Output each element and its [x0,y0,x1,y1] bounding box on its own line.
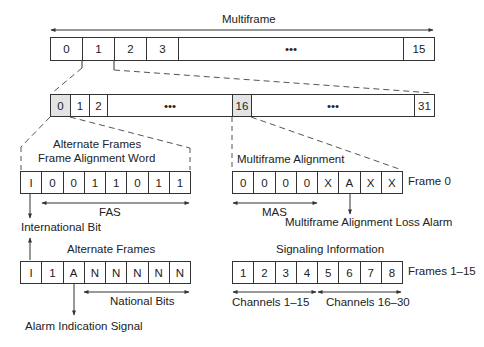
frame0-label: Frame 0 [408,175,451,187]
mf-alignment-loss-alarm-label: Multiframe Alignment Loss Alarm [285,216,452,228]
timeslot-cell: 31 [415,95,434,116]
signaling-heading: Signaling Information [276,243,384,255]
e1-multiframe-diagram: Multiframe 0 1 2 3 ••• 15 0 1 2 ••• 16 •… [0,0,484,347]
bit-cell: 0 [42,172,63,193]
timeslot-ellipsis: ••• [252,95,415,116]
bit-cell: 8 [382,262,402,283]
bit-cell: 1 [233,262,254,283]
national-bits-label: National Bits [110,295,175,307]
frame-cell: 1 [83,38,115,60]
bit-cell: N [85,262,106,283]
nfas-heading: Alternate Frames [67,243,155,255]
timeslot-cell: 2 [90,95,108,116]
multiframe-title: Multiframe [222,13,276,25]
bit-cell: 5 [318,262,339,283]
timeslot-cell-0: 0 [51,95,71,116]
bit-cell: 0 [276,172,297,193]
bit-cell: 3 [276,262,297,283]
alarm-indication-label: Alarm Indication Signal [25,320,143,332]
frame-cell: 15 [404,38,434,60]
frame-cell: 0 [51,38,83,60]
bit-cell: 6 [339,262,360,283]
timeslot-cell-16: 16 [233,95,252,116]
channels-1-15-label: Channels 1–15 [232,296,309,308]
bit-cell: 1 [149,172,170,193]
fas-heading-line1: Alternate Frames [53,138,141,150]
bit-cell: 7 [361,262,382,283]
bit-cell: 0 [64,172,85,193]
mas-range-label: MAS [262,206,287,218]
bit-cell: X [361,172,382,193]
frame-cell: 2 [115,38,147,60]
fas-heading-line2: Frame Alignment Word [38,152,155,164]
international-bit-label: International Bit [21,221,101,233]
fas-range-label: FAS [99,206,121,218]
bit-cell: 0 [233,172,254,193]
bit-cell: 1 [85,172,106,193]
fas-bits-row: I 0 0 1 1 0 1 1 [20,171,191,194]
bit-cell: X [382,172,402,193]
multiframe-row: 0 1 2 3 ••• 15 [50,37,435,61]
bit-cell: 0 [127,172,148,193]
bit-cell: 4 [297,262,318,283]
channels-16-30-label: Channels 16–30 [326,296,410,308]
bit-cell: N [106,262,127,283]
bit-cell: 1 [42,262,63,283]
signaling-bits-row: 1 2 3 4 5 6 7 8 [232,261,403,284]
timeslot-row: 0 1 2 ••• 16 ••• 31 [50,94,435,117]
timeslot-ellipsis: ••• [108,95,233,116]
mas-bits-row: 0 0 0 0 X A X X [232,171,403,194]
bit-cell: I [21,172,42,193]
bit-cell: A [339,172,360,193]
timeslot-cell: 1 [71,95,90,116]
frame-ellipsis: ••• [179,38,404,60]
frame-cell: 3 [147,38,179,60]
bit-cell: 2 [254,262,275,283]
bit-cell: I [21,262,42,283]
bit-cell: 0 [297,172,318,193]
bit-cell: 0 [254,172,275,193]
bit-cell: N [170,262,190,283]
bit-cell: A [64,262,85,283]
bit-cell: X [318,172,339,193]
bit-cell: 1 [170,172,190,193]
bit-cell: N [127,262,148,283]
bit-cell: 1 [106,172,127,193]
mas-heading: Multiframe Alignment [237,153,344,165]
bit-cell: N [149,262,170,283]
nfas-bits-row: I 1 A N N N N N [20,261,191,284]
frames-1-15-label: Frames 1–15 [408,265,476,277]
